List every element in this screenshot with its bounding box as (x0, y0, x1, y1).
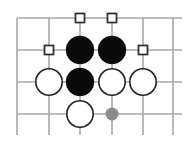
square-marker-icon (45, 46, 54, 55)
white-stone-icon (67, 101, 93, 127)
square-marker-icon (139, 46, 148, 55)
black-stone-icon (98, 36, 126, 64)
white-stone-icon (36, 69, 62, 95)
point-markers (106, 108, 119, 121)
square-markers (45, 14, 148, 55)
black-stone-icon (66, 68, 94, 96)
square-marker-icon (76, 14, 85, 23)
black-stone-icon (66, 36, 94, 64)
go-board-diagram (0, 0, 193, 143)
square-marker-icon (108, 14, 117, 23)
white-stone-icon (130, 69, 156, 95)
grey-point-icon (106, 108, 119, 121)
white-stone-icon (99, 69, 125, 95)
